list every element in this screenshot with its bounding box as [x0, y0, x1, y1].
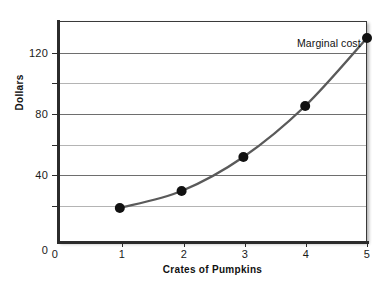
data-point-3 — [238, 152, 248, 162]
chart-figure: 120 80 40 0 0 1 2 3 4 5 Dollars Crates o… — [0, 0, 388, 284]
series-line-marginal-cost — [120, 38, 367, 208]
data-point-4 — [300, 101, 310, 111]
data-point-2 — [177, 186, 187, 196]
series-label-marginal-cost: Marginal cost — [297, 37, 361, 49]
data-point-5 — [362, 33, 372, 43]
data-point-1 — [115, 203, 125, 213]
